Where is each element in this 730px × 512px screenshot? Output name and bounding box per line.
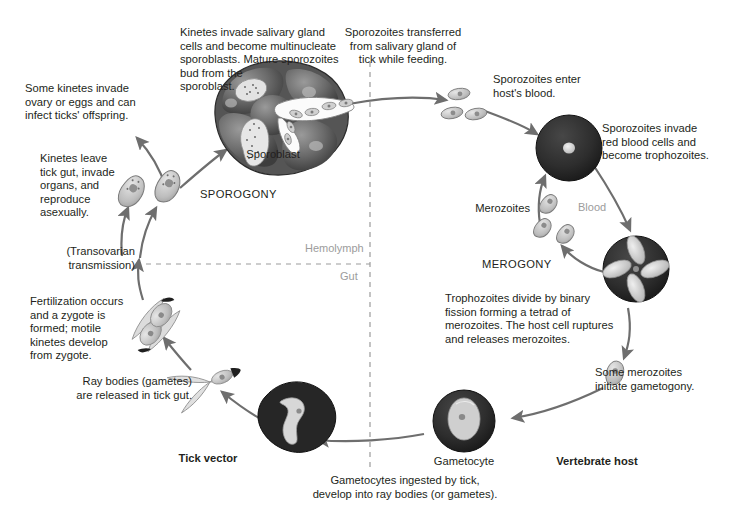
- label-merogony: MEROGONY: [482, 258, 622, 272]
- arrow-sporozoites-to-rbc: [482, 110, 537, 134]
- ingested-gametocyte-illustration: [258, 382, 336, 452]
- gametocyte-illustration: [433, 390, 495, 452]
- caption-transovarian: (Transovarian transmission): [25, 245, 135, 272]
- label-sporoblast: Sporoblast: [208, 148, 338, 162]
- arrow-zygote-to-kinete: [138, 260, 143, 300]
- arrow-merozoite-to-gametocyte: [513, 388, 603, 418]
- caption-kinetes-leave: Kinetes leave tick gut, invade organs, a…: [40, 152, 136, 220]
- caption-sporozoites-enter: Sporozoites enter host's blood.: [493, 73, 613, 100]
- label-gut: Gut: [340, 270, 358, 282]
- label-gametocyte: Gametocyte: [414, 455, 514, 469]
- caption-fertilization: Fertilization occurs and a zygote is for…: [30, 295, 140, 363]
- caption-gametocytes-ingested: Gametocytes ingested by tick, develop in…: [281, 474, 529, 501]
- caption-some-kinetes: Some kinetes invade ovary or eggs and ca…: [25, 82, 175, 123]
- life-cycle-diagram: Kinetes invade salivary gland cells and …: [0, 0, 730, 512]
- caption-sporozoites-invade: Sporozoites invade red blood cells and b…: [602, 122, 730, 163]
- label-blood: Blood: [578, 201, 606, 213]
- caption-some-merozoites: Some merozoites initiate gametogony.: [595, 366, 725, 393]
- caption-sporozoites-transferred: Sporozoites transferred from salivary gl…: [328, 26, 478, 67]
- trophozoite-in-rbc-illustration: [536, 115, 602, 181]
- arrow-gametocyte-to-raybody: [222, 392, 259, 418]
- arrow-trophozoite-to-tetrad: [594, 166, 630, 230]
- arrow-sporoblast-to-host: [349, 97, 446, 104]
- label-vertebrate-host: Vertebrate host: [527, 455, 667, 469]
- label-hemolymph: Hemolymph: [305, 242, 364, 254]
- caption-trophozoites-divide: Trophozoites divide by binary fission fo…: [445, 292, 645, 346]
- label-sporogony: SPOROGONY: [200, 188, 340, 202]
- label-tick-vector: Tick vector: [148, 452, 268, 466]
- arrow-kinete-up-2: [140, 208, 156, 258]
- arrow-gametocyte-to-tick: [318, 434, 424, 441]
- caption-ray-bodies: Ray bodies (gametes) are released in tic…: [52, 375, 192, 402]
- arrow-raybody-to-zygote: [164, 338, 191, 370]
- sporozoites-group: [440, 87, 488, 122]
- label-merozoites: Merozoites: [440, 202, 530, 216]
